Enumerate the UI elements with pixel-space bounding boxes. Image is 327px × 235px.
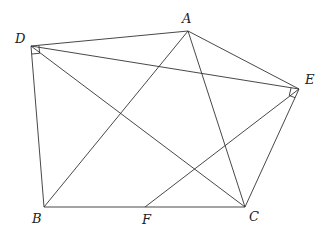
segment-DB: [31, 46, 44, 207]
label-C: C: [249, 210, 259, 223]
segment-AB: [44, 31, 188, 207]
label-B: B: [32, 212, 42, 225]
segment-AC: [188, 31, 245, 207]
segment-EC: [245, 89, 299, 207]
label-F: F: [142, 213, 151, 226]
label-E: E: [305, 73, 315, 86]
segment-DA: [31, 31, 188, 46]
geometry-diagram: A D E B F C: [0, 0, 327, 235]
label-D: D: [15, 32, 25, 45]
segment-DC: [31, 46, 245, 207]
label-A: A: [182, 12, 191, 25]
diagram-lines: [0, 0, 327, 235]
